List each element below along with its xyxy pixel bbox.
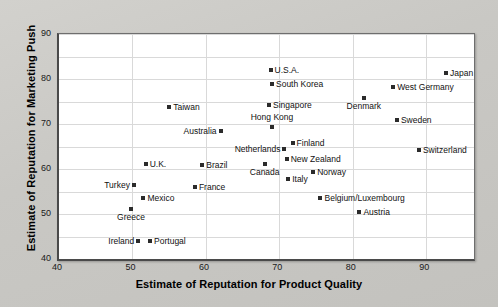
data-point-label: Brazil <box>206 161 227 170</box>
scatter-plot-figure: JapanU.S.A.South KoreaWest GermanyDenmar… <box>0 0 498 307</box>
gridline-horizontal <box>59 34 474 35</box>
data-point-label: U.S.A. <box>275 66 300 75</box>
data-point-label: Hong Kong <box>251 113 294 122</box>
data-point-label: Finland <box>297 139 325 148</box>
data-point-label: Singapore <box>273 101 312 110</box>
data-point-label: Italy <box>292 175 308 184</box>
data-point-marker[interactable] <box>311 170 315 174</box>
gridline-horizontal <box>59 57 474 58</box>
x-tick-label: 50 <box>117 262 143 272</box>
data-point-label: Taiwan <box>173 103 199 112</box>
data-point-label: Denmark <box>347 102 381 111</box>
data-point-marker[interactable] <box>141 196 145 200</box>
data-point-label: Portugal <box>154 237 186 246</box>
data-point-label: U.K. <box>150 160 167 169</box>
data-point-label: Netherlands <box>235 145 281 154</box>
data-point-marker[interactable] <box>148 239 152 243</box>
data-point-marker[interactable] <box>269 68 273 72</box>
data-point-marker[interactable] <box>136 239 140 243</box>
data-point-marker[interactable] <box>219 129 223 133</box>
x-tick-label: 80 <box>338 262 364 272</box>
data-point-marker[interactable] <box>263 162 267 166</box>
data-point-label: Sweden <box>401 116 432 125</box>
plot-area: JapanU.S.A.South KoreaWest GermanyDenmar… <box>57 33 475 261</box>
data-point-marker[interactable] <box>144 162 148 166</box>
data-point-label: Canada <box>250 168 280 177</box>
data-point-label: Ireland <box>108 237 134 246</box>
data-point-marker[interactable] <box>282 147 286 151</box>
data-point-label: South Korea <box>276 80 323 89</box>
data-point-label: Belgium/Luxembourg <box>324 194 404 203</box>
data-point-marker[interactable] <box>286 177 290 181</box>
data-point-label: Japan <box>450 69 473 78</box>
data-point-marker[interactable] <box>267 103 271 107</box>
data-point-label: Mexico <box>147 194 174 203</box>
data-point-marker[interactable] <box>167 105 171 109</box>
x-tick-label: 60 <box>191 262 217 272</box>
data-point-label: Norway <box>317 168 346 177</box>
data-point-marker[interactable] <box>132 183 136 187</box>
data-point-label: France <box>199 183 225 192</box>
data-point-marker[interactable] <box>444 71 448 75</box>
gridline-horizontal <box>59 192 474 193</box>
data-point-marker[interactable] <box>200 163 204 167</box>
data-point-marker[interactable] <box>193 185 197 189</box>
data-point-marker[interactable] <box>357 210 361 214</box>
data-point-label: Switzerland <box>423 146 467 155</box>
data-point-label: Greece <box>117 213 145 222</box>
data-point-label: Austria <box>363 208 389 217</box>
data-point-marker[interactable] <box>270 125 274 129</box>
data-point-marker[interactable] <box>270 82 274 86</box>
x-axis-title: Estimate of Reputation for Product Quali… <box>0 278 498 290</box>
data-point-marker[interactable] <box>291 141 295 145</box>
data-point-marker[interactable] <box>417 148 421 152</box>
data-point-label: Turkey <box>104 181 130 190</box>
data-point-marker[interactable] <box>318 196 322 200</box>
x-tick-label: 40 <box>44 262 70 272</box>
y-tick-label: 40 <box>27 253 51 263</box>
data-point-label: West Germany <box>397 83 454 92</box>
data-point-marker[interactable] <box>129 207 133 211</box>
data-point-marker[interactable] <box>362 96 366 100</box>
gridline-horizontal <box>59 79 474 80</box>
data-point-marker[interactable] <box>391 85 395 89</box>
x-tick-label: 70 <box>264 262 290 272</box>
data-point-label: New Zealand <box>291 155 341 164</box>
data-point-marker[interactable] <box>395 118 399 122</box>
y-axis-title: Estimate of Reputation for Marketing Pus… <box>25 23 37 253</box>
data-point-marker[interactable] <box>285 157 289 161</box>
data-point-label: Australia <box>184 127 217 136</box>
x-tick-label: 90 <box>411 262 437 272</box>
